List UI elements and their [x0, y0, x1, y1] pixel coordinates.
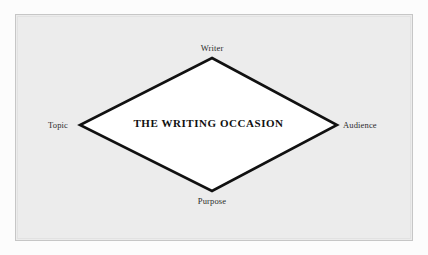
vertex-label-audience: Audience — [343, 121, 377, 130]
scan-page: Writer Topic Audience Purpose THE WRITIN… — [0, 0, 428, 255]
vertex-label-writer: Writer — [0, 44, 424, 53]
vertex-label-purpose: Purpose — [0, 197, 424, 206]
vertex-label-topic: Topic — [48, 121, 68, 130]
diagram-center-title: THE WRITING OCCASION — [80, 118, 337, 129]
